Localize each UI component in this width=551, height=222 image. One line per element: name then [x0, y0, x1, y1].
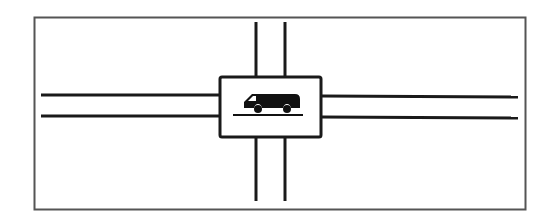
intersection-diagram: [0, 0, 551, 222]
